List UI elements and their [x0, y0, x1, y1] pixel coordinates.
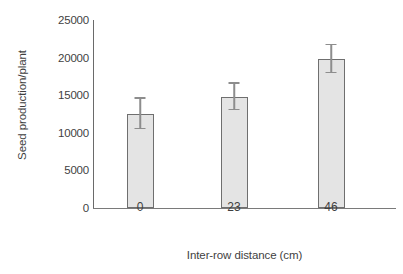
error-bar-cap-lower: [229, 109, 240, 111]
y-tick-label: 5000: [33, 163, 89, 177]
plot-area: [93, 20, 396, 209]
y-tick-label: 20000: [33, 51, 89, 65]
error-bar-cap-upper: [326, 44, 337, 46]
error-bar-line: [139, 99, 141, 129]
error-bar-cap-lower: [135, 128, 146, 130]
x-tick-label: 0: [110, 200, 170, 215]
bar-23: [221, 97, 248, 208]
y-axis-tick-labels: 2500020000150001000050000: [33, 0, 89, 274]
y-tick-label: 25000: [33, 13, 89, 27]
x-tick-label: 23: [204, 200, 264, 215]
error-bar-cap-lower: [326, 72, 337, 74]
y-axis-line: [93, 20, 94, 209]
x-tick-label: 46: [301, 200, 361, 215]
y-axis-title: Seed production/plant: [14, 10, 30, 200]
bar-46: [318, 59, 345, 208]
bar-group: [127, 54, 154, 208]
x-axis-title: Inter-row distance (cm): [93, 248, 396, 263]
y-tick-label: 0: [33, 201, 89, 215]
y-tick-label: 15000: [33, 88, 89, 102]
error-bar-cap-upper: [229, 82, 240, 84]
error-bar-line: [233, 84, 235, 110]
error-bar-cap-upper: [135, 97, 146, 99]
bar-group: [318, 0, 345, 208]
y-tick-label: 10000: [33, 126, 89, 140]
error-bar-line: [330, 45, 332, 73]
bar-chart-figure: Seed production/plant 250002000015000100…: [0, 0, 403, 274]
bar-group: [221, 37, 248, 208]
